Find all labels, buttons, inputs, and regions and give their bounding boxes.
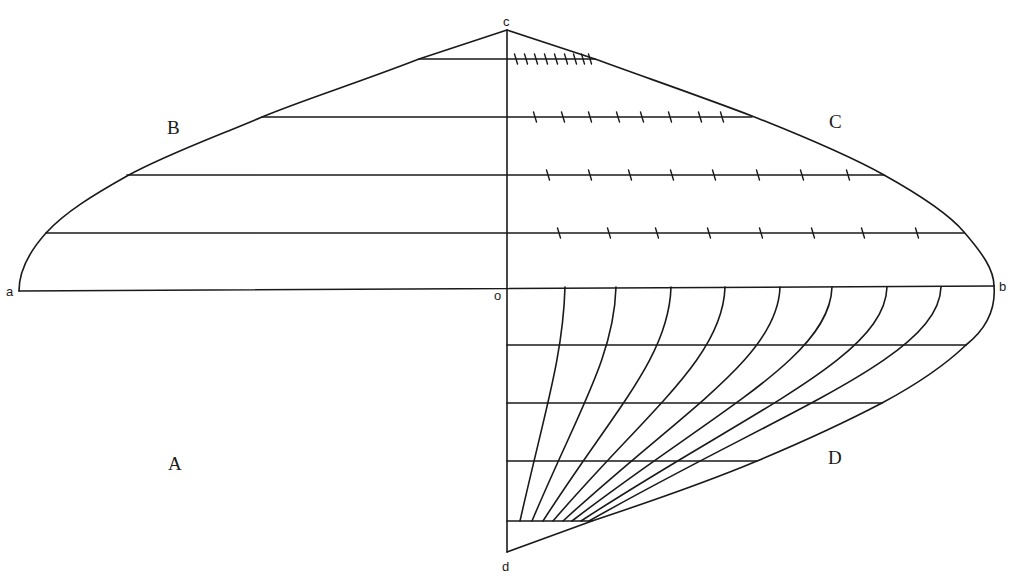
region-label-D: D bbox=[828, 447, 842, 468]
curve-C-boundary bbox=[507, 30, 994, 286]
lower-arc-6 bbox=[572, 287, 832, 521]
region-label-C: C bbox=[829, 111, 842, 132]
region-label-B: B bbox=[167, 117, 180, 138]
lower-arc-1 bbox=[520, 287, 565, 521]
point-label-d: d bbox=[502, 559, 509, 574]
diagram-shapes bbox=[19, 30, 994, 552]
curve-B-boundary bbox=[19, 30, 507, 291]
geometric-diagram: a b c o d A B C D bbox=[0, 0, 1014, 582]
region-label-A: A bbox=[168, 453, 182, 474]
curve-D-boundary bbox=[507, 286, 994, 552]
point-label-o: o bbox=[494, 288, 501, 303]
lower-arc-8 bbox=[589, 287, 941, 521]
point-label-a: a bbox=[6, 284, 14, 299]
diagram-labels: a b c o d A B C D bbox=[6, 14, 1006, 574]
point-label-c: c bbox=[503, 14, 510, 29]
point-label-b: b bbox=[999, 279, 1006, 294]
lower-arc-5 bbox=[563, 287, 780, 521]
